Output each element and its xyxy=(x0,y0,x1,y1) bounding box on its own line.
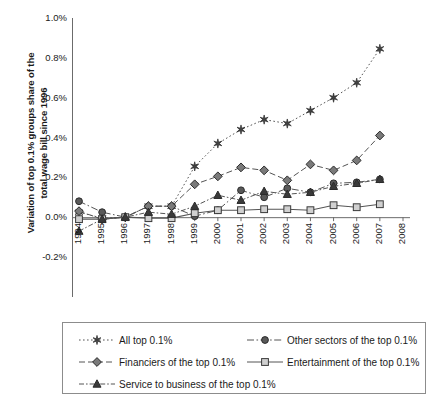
legend-item-entertainment[interactable]: Entertainment of the top 0.1% xyxy=(245,355,419,369)
legend-symbol-triangle xyxy=(77,377,117,391)
x-axis-tick-label: 2002 xyxy=(258,223,268,244)
y-axis-tick-label: 0.6% xyxy=(23,93,67,103)
legend-symbol-diamond xyxy=(77,355,117,369)
legend-label: Entertainment of the top 0.1% xyxy=(287,357,419,368)
plot-area: 1.0%0.8%0.6%0.4%0.2%0.0%-0.2%19941995199… xyxy=(72,18,410,297)
chart-canvas xyxy=(72,18,410,297)
x-axis-tick-label: 2004 xyxy=(304,223,314,244)
legend-label: Other sectors of the top 0.1% xyxy=(287,335,417,346)
y-axis-tick-label: 0.4% xyxy=(23,133,67,143)
y-axis-tick-label: -0.2% xyxy=(23,252,67,262)
y-axis-tick-label: 0.2% xyxy=(23,172,67,182)
legend-item-service-to-business[interactable]: Service to business of the top 0.1% xyxy=(77,377,276,391)
chart-figure: Variation of top 0.1% groups share of th… xyxy=(0,0,437,407)
legend-label: Financiers of the top 0.1% xyxy=(119,357,235,368)
legend-item-other-sectors[interactable]: Other sectors of the top 0.1% xyxy=(245,333,417,347)
x-axis-tick-label: 1999 xyxy=(189,223,199,244)
legend-label: All top 0.1% xyxy=(119,335,172,346)
y-axis-tick-label: 0.8% xyxy=(23,53,67,63)
legend-symbol-square xyxy=(245,355,285,369)
x-axis-tick-label: 1997 xyxy=(142,223,152,244)
x-axis-tick-label: 1998 xyxy=(166,223,176,244)
x-axis-tick-label: 2008 xyxy=(397,223,407,244)
x-axis-tick-label: 2000 xyxy=(212,223,222,244)
chart-legend: All top 0.1% Other sectors of the top 0.… xyxy=(62,322,426,394)
x-axis-tick-label: 1996 xyxy=(119,223,129,244)
legend-symbol-star xyxy=(77,333,117,347)
x-axis-tick-label: 2001 xyxy=(235,223,245,244)
x-axis-tick-label: 2005 xyxy=(328,223,338,244)
y-axis-tick-label: 0.0% xyxy=(23,212,67,222)
legend-item-financiers[interactable]: Financiers of the top 0.1% xyxy=(77,355,235,369)
x-axis-tick-label: 2006 xyxy=(351,223,361,244)
legend-label: Service to business of the top 0.1% xyxy=(119,379,276,390)
x-axis-tick-label: 2003 xyxy=(281,223,291,244)
legend-item-all-top[interactable]: All top 0.1% xyxy=(77,333,172,347)
series-star xyxy=(75,44,384,222)
x-axis-tick-label: 1995 xyxy=(96,223,106,244)
legend-symbol-circle xyxy=(245,333,285,347)
y-axis-tick-label: 1.0% xyxy=(23,13,67,23)
x-axis-tick-label: 2007 xyxy=(374,223,384,244)
x-axis-tick-label: 1994 xyxy=(73,223,83,244)
